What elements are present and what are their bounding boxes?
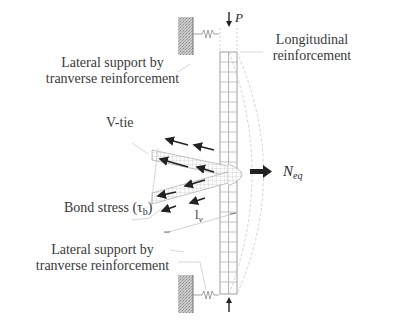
- label-line: reinforcement: [262, 48, 362, 64]
- top-spring-icon: [193, 30, 219, 38]
- bond-stress-text: Bond stress (τ: [64, 200, 143, 215]
- label-neq: Neq: [283, 163, 302, 184]
- label-line: Lateral support by: [20, 242, 185, 258]
- load-arrow-top-icon: [226, 12, 232, 27]
- label-line: tranverse reinforcement: [30, 71, 195, 87]
- neq-subscript: eq: [293, 170, 302, 181]
- label-line: Lateral support by: [30, 55, 195, 71]
- label-longitudinal-reinforcement: Longitudinal reinforcement: [262, 32, 362, 64]
- label-lateral-support-top: Lateral support by tranverse reinforceme…: [30, 55, 195, 87]
- label-line: tranverse reinforcement: [20, 258, 185, 274]
- lv-subscript: v: [199, 214, 203, 224]
- bottom-spring-icon: [193, 291, 219, 299]
- top-wall-support: [178, 17, 193, 55]
- bottom-wall-support: [178, 275, 193, 313]
- load-arrow-bottom-icon: [226, 297, 232, 312]
- label-line: Longitudinal: [262, 32, 362, 48]
- neq-text: N: [283, 163, 293, 179]
- label-v-tie: V-tie: [106, 115, 133, 131]
- label-bond-stress: Bond stress (τb): [64, 200, 152, 220]
- diagram-canvas: Lateral support by tranverse reinforceme…: [0, 0, 406, 334]
- label-lv: lv: [195, 207, 203, 227]
- neq-arrow-icon: [250, 165, 272, 178]
- bond-stress-close: ): [148, 200, 153, 215]
- label-lateral-support-bottom: Lateral support by tranverse reinforceme…: [20, 242, 185, 274]
- label-p: P: [235, 10, 243, 26]
